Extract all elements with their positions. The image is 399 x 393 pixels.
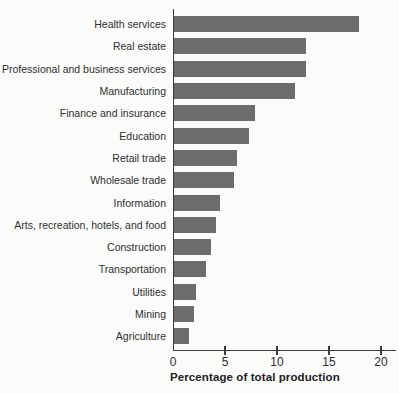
bar-row: Health services	[0, 13, 399, 35]
production-bar-chart: Health servicesReal estateProfessional a…	[0, 0, 399, 393]
x-axis-tick-label: 15	[317, 355, 341, 369]
bar	[174, 38, 306, 54]
category-label: Professional and business services	[0, 63, 174, 75]
bar-row: Information	[0, 191, 399, 213]
bar-row: Manufacturing	[0, 80, 399, 102]
bar	[174, 172, 234, 188]
category-label: Retail trade	[0, 152, 174, 164]
bar-row: Agriculture	[0, 325, 399, 347]
bar-row: Finance and insurance	[0, 102, 399, 124]
category-label: Transportation	[0, 263, 174, 275]
x-axis-title: Percentage of total production	[170, 371, 340, 383]
category-label: Manufacturing	[0, 85, 174, 97]
category-label: Mining	[0, 308, 174, 320]
x-axis-tick	[328, 346, 330, 355]
bar	[174, 83, 295, 99]
x-axis-tick	[276, 346, 278, 355]
category-label: Health services	[0, 18, 174, 30]
bar	[174, 195, 220, 211]
bar-row: Arts, recreation, hotels, and food	[0, 214, 399, 236]
bar	[174, 328, 189, 344]
bar-row: Retail trade	[0, 147, 399, 169]
y-axis-line	[173, 9, 175, 350]
bar-row: Wholesale trade	[0, 169, 399, 191]
bar-row: Utilities	[0, 281, 399, 303]
bar	[174, 128, 249, 144]
category-label: Utilities	[0, 286, 174, 298]
x-axis-tick-label: 0	[161, 355, 185, 369]
category-label: Wholesale trade	[0, 174, 174, 186]
bar-row: Education	[0, 124, 399, 146]
bar	[174, 217, 216, 233]
bar-row: Construction	[0, 236, 399, 258]
category-label: Construction	[0, 241, 174, 253]
x-axis-tick-label: 5	[213, 355, 237, 369]
x-axis-tick	[224, 346, 226, 355]
category-label: Arts, recreation, hotels, and food	[0, 219, 174, 231]
bar-row: Mining	[0, 303, 399, 325]
bar	[174, 261, 206, 277]
bar-row: Real estate	[0, 35, 399, 57]
category-label: Real estate	[0, 40, 174, 52]
category-label: Agriculture	[0, 330, 174, 342]
bar-row: Professional and business services	[0, 58, 399, 80]
bar	[174, 16, 359, 32]
bar	[174, 306, 194, 322]
bar-rows: Health servicesReal estateProfessional a…	[0, 13, 399, 347]
bar	[174, 239, 211, 255]
category-label: Finance and insurance	[0, 107, 174, 119]
bar-row: Transportation	[0, 258, 399, 280]
category-label: Education	[0, 130, 174, 142]
x-axis-tick	[380, 346, 382, 355]
x-axis-line	[173, 350, 396, 352]
category-label: Information	[0, 197, 174, 209]
bar	[174, 105, 255, 121]
bar	[174, 61, 306, 77]
bar	[174, 150, 237, 166]
x-axis-tick-label: 20	[369, 355, 393, 369]
x-axis-tick-label: 10	[265, 355, 289, 369]
bar	[174, 284, 196, 300]
